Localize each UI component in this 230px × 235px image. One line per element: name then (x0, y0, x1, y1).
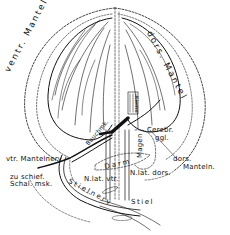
label-gill: Kieme (133, 96, 140, 113)
diagram-drawing (0, 0, 230, 235)
label-n-lat-vtr: N.lat. vtr. (84, 176, 118, 183)
label-dorsal: dors. (173, 156, 191, 163)
label-ganglion: ggl. (155, 135, 169, 142)
label-stomach: Magen (137, 133, 144, 158)
mantle-nerve-diagram: ventr. Mantel dors. Mantel vtr. Mantelne… (0, 0, 230, 235)
label-stalk: Stiel (131, 199, 154, 206)
label-n-lat-dors: N.lat. dors. (130, 170, 171, 177)
label-ventral-mantle-nerve: vtr. Mantelnerv (6, 156, 62, 163)
label-cerebral: Cerebr. (147, 127, 174, 134)
label-shell-muscle: Schal. msk. (10, 181, 52, 188)
label-mantle-nerve: Manteln. (183, 164, 215, 171)
